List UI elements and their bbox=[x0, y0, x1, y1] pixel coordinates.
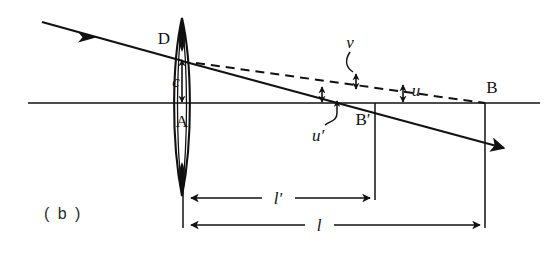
leader-line-u-prime bbox=[325, 113, 337, 125]
label-distance-l: l bbox=[317, 216, 322, 235]
label-point-a: A bbox=[176, 112, 189, 131]
label-angle-u-prime: u′ bbox=[312, 126, 325, 145]
refracted-ray bbox=[182, 61, 504, 148]
optical-ray-diagram-figure: c v u′ u D A B′ B l′ bbox=[0, 0, 560, 253]
label-point-b-prime: B′ bbox=[355, 110, 370, 129]
label-angle-v: v bbox=[346, 33, 354, 52]
angle-measure-u-prime bbox=[322, 87, 337, 125]
leader-line-v bbox=[347, 52, 353, 72]
undeviated-dashed-ray bbox=[196, 63, 485, 103]
label-point-d: D bbox=[158, 29, 170, 48]
biconvex-lens bbox=[174, 18, 190, 196]
label-lens-height: c bbox=[172, 72, 180, 91]
label-distance-l-prime: l′ bbox=[274, 189, 283, 208]
label-angle-u: u bbox=[412, 81, 421, 100]
panel-label: ( b ) bbox=[44, 205, 82, 222]
ray-diagram-canvas: c v u′ u D A B′ B l′ bbox=[0, 0, 560, 253]
label-point-b: B bbox=[486, 78, 497, 97]
